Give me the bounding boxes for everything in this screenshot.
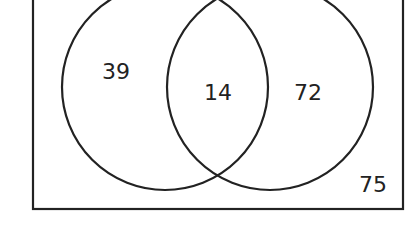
left-only-value: 39 [102, 59, 130, 84]
right-only-value: 72 [294, 80, 322, 105]
venn-diagram: 39 14 72 75 [0, 0, 420, 240]
intersection-value: 14 [204, 80, 232, 105]
outside-value: 75 [359, 172, 387, 197]
left-set-circle [62, 0, 268, 190]
right-set-circle [167, 0, 373, 190]
